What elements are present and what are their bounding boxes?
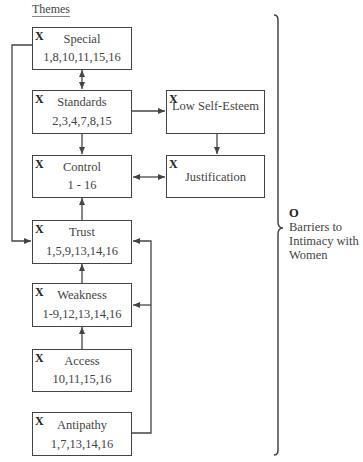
outcome-line-1: Barriers to bbox=[289, 220, 359, 234]
theme-box-trust: X Trust 1,5,9,13,14,16 bbox=[32, 220, 132, 264]
theme-box-low-self-esteem: X Low Self-Esteem bbox=[166, 90, 265, 134]
theme-cases: 1,8,10,11,15,16 bbox=[33, 50, 131, 65]
theme-box-antipathy: X Antipathy 1,7,13,14,16 bbox=[32, 412, 132, 456]
outcome-marker: O bbox=[289, 206, 359, 220]
theme-name: Trust bbox=[33, 225, 131, 240]
outcome-label: O Barriers to Intimacy with Women bbox=[289, 206, 359, 262]
theme-name: Special bbox=[33, 32, 131, 47]
theme-name: Justification bbox=[167, 170, 264, 185]
theme-box-special: X Special 1,8,10,11,15,16 bbox=[32, 27, 132, 70]
brace bbox=[274, 15, 283, 455]
theme-cases: 1,5,9,13,14,16 bbox=[33, 244, 131, 259]
theme-box-control: X Control 1 - 16 bbox=[32, 155, 132, 198]
theme-cases: 2,3,4,7,8,15 bbox=[33, 114, 131, 129]
arrow-special-trust bbox=[12, 45, 32, 241]
outcome-line-3: Women bbox=[289, 248, 359, 262]
theme-cases: 1-9,12,13,14,16 bbox=[33, 307, 131, 322]
theme-cases: 1,7,13,14,16 bbox=[33, 437, 131, 452]
arrow-antipathy-trust bbox=[132, 241, 151, 433]
theme-name: Low Self-Esteem bbox=[167, 99, 264, 114]
outcome-line-2: Intimacy with bbox=[289, 234, 359, 248]
theme-box-weakness: X Weakness 1-9,12,13,14,16 bbox=[32, 283, 132, 327]
theme-name: Weakness bbox=[33, 288, 131, 303]
theme-cases: 10,11,15,16 bbox=[33, 372, 131, 387]
theme-box-justification: X Justification bbox=[166, 155, 265, 198]
theme-name: Standards bbox=[33, 95, 131, 110]
theme-name: Control bbox=[33, 160, 131, 175]
theme-name: Antipathy bbox=[33, 418, 131, 433]
theme-cases: 1 - 16 bbox=[33, 178, 131, 193]
theme-box-standards: X Standards 2,3,4,7,8,15 bbox=[32, 90, 132, 134]
theme-name: Access bbox=[33, 354, 131, 369]
theme-box-access: X Access 10,11,15,16 bbox=[32, 349, 132, 392]
